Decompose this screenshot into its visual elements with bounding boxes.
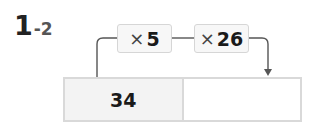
operation-value: 26 — [217, 28, 243, 50]
start-connector — [97, 38, 117, 77]
end-connector — [249, 38, 268, 70]
operation-value: 5 — [146, 28, 159, 50]
multiply-icon: × — [129, 28, 144, 49]
answer-cell[interactable] — [184, 79, 301, 120]
answer-table: 34 — [63, 77, 302, 122]
operation-box-1: ×5 — [117, 24, 172, 53]
multiply-icon: × — [200, 28, 215, 49]
arrow-down-icon — [264, 69, 272, 76]
start-value-cell: 34 — [65, 79, 184, 120]
operation-box-2: ×26 — [194, 24, 249, 53]
